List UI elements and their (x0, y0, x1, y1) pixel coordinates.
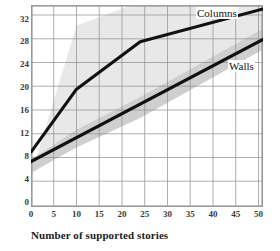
y-tick-label: 4 (3, 175, 29, 184)
x-tick-label: 0 (20, 210, 42, 219)
x-tick-label: 5 (43, 210, 65, 219)
y-tick-label: 24 (3, 60, 29, 69)
y-tick-label: 32 (3, 15, 29, 24)
chart-canvas (31, 5, 263, 207)
x-tick-label: 45 (225, 210, 247, 219)
x-tick-label: 25 (134, 210, 156, 219)
x-axis-title: Number of supported stories (31, 229, 168, 241)
x-tick-label: 10 (66, 210, 88, 219)
y-tick-label: 0 (3, 198, 29, 207)
y-tick-label: 16 (3, 106, 29, 115)
x-tick-label: 15 (88, 210, 110, 219)
plot-area: Columns Walls (31, 5, 263, 207)
chart-screenshot: 32 28 24 20 16 12 8 4 0 (0, 0, 280, 251)
x-tick-label: 20 (111, 210, 133, 219)
x-tick-label: 35 (179, 210, 201, 219)
x-tick-label: 30 (157, 210, 179, 219)
shaded-bands (31, 5, 263, 176)
y-tick-label: 12 (3, 129, 29, 138)
y-tick-label: 20 (3, 83, 29, 92)
y-tick-label: 28 (3, 37, 29, 46)
x-tick-label: 40 (202, 210, 224, 219)
series-label-columns: Columns (196, 7, 238, 19)
x-axis-tick-labels: 0 5 10 15 20 25 30 35 40 45 50 (0, 210, 280, 224)
series-label-walls: Walls (228, 60, 255, 72)
y-tick-label: 8 (3, 152, 29, 161)
x-tick-label: 50 (248, 210, 270, 219)
